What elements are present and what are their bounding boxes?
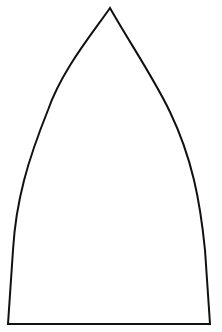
diagram-canvas (0, 0, 222, 332)
pointed-arch-outline (8, 8, 210, 324)
arch-shape-drawing (0, 0, 222, 332)
